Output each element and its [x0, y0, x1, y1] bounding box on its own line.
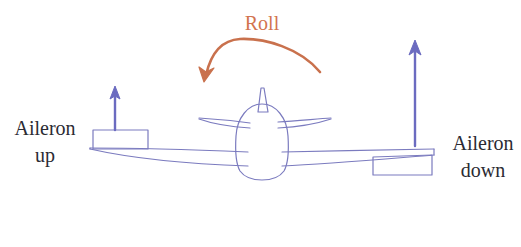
- vertical-tail-fin: [258, 88, 268, 112]
- right-wing-leading-edge: [282, 149, 434, 152]
- aileron-up-label-line1: Aileron: [14, 117, 75, 139]
- right-wing-trailing-edge: [282, 155, 434, 166]
- horizontal-stabilizer-left: [199, 118, 250, 123]
- aileron-roll-diagram: Roll Aileron up Aileron down: [0, 0, 521, 247]
- roll-label: Roll: [245, 12, 280, 34]
- aileron-down-label-line1: Aileron: [452, 132, 513, 154]
- curved-roll-arrow-icon: [199, 39, 320, 82]
- left-aileron-box: [93, 130, 148, 149]
- fuselage: [236, 104, 289, 180]
- roll-arrow-arc: [206, 39, 320, 75]
- left-aileron-up-shape: [93, 130, 148, 149]
- up-arrow-icon-right: [409, 40, 421, 146]
- diagram-canvas: Roll Aileron up Aileron down: [0, 0, 521, 247]
- aileron-up-label-line2: up: [35, 144, 55, 167]
- up-arrow-icon-left: [110, 86, 120, 130]
- aircraft-front-view-icon: [90, 88, 434, 180]
- aileron-down-label-line2: down: [461, 159, 505, 181]
